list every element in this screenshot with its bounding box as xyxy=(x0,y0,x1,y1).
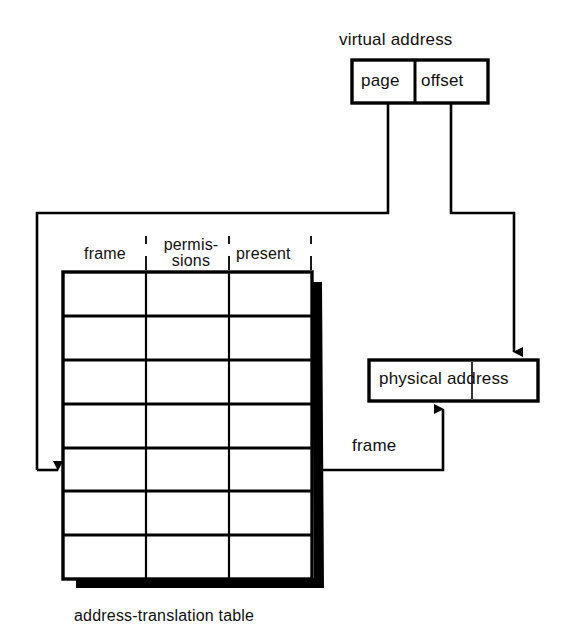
virtual-address-offset-field-label: offset xyxy=(421,71,463,91)
table-column-header-permissions-line2: sions xyxy=(157,253,225,269)
address-translation-diagram: virtual address page offset physical add… xyxy=(0,0,570,642)
physical-address-label: physical address xyxy=(379,369,509,389)
frame-connector-label: frame xyxy=(352,436,396,456)
table-column-header-permissions: permis-sions xyxy=(157,237,225,269)
address-translation-table-caption: address-translation table xyxy=(74,607,254,625)
virtual-address-label: virtual address xyxy=(339,30,453,50)
address-translation-table-outline xyxy=(63,272,312,579)
table-column-header-present: present xyxy=(236,245,291,263)
diagram-canvas xyxy=(0,0,570,642)
table-column-header-frame: frame xyxy=(84,245,126,263)
connector-offset-to-physical xyxy=(451,103,514,352)
table-column-header-permissions-line1: permis- xyxy=(164,236,219,253)
virtual-address-page-field-label: page xyxy=(361,71,400,91)
